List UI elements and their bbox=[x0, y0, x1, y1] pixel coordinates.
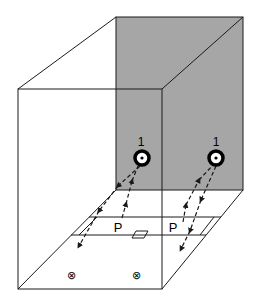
point-label-left: P bbox=[114, 220, 123, 235]
into-page-marker-left: ⊗ bbox=[67, 269, 76, 281]
back-wall bbox=[116, 17, 243, 190]
source-label-right: 1 bbox=[213, 135, 220, 149]
point-label-right: P bbox=[169, 220, 178, 235]
box-diagram: 1 1 P P ⊗ ⊗ bbox=[0, 0, 255, 305]
floor-band bbox=[71, 217, 221, 238]
ray-up-2 bbox=[183, 205, 186, 222]
ray-up-1 bbox=[122, 204, 126, 218]
source-label-left: 1 bbox=[138, 135, 145, 149]
into-page-marker-right: ⊗ bbox=[132, 269, 141, 281]
